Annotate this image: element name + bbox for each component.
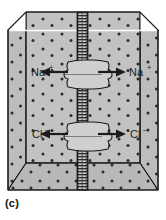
panel-caption: (c) xyxy=(5,197,19,210)
chloride-channel-protein xyxy=(64,122,112,151)
sodium-right-charge: + xyxy=(147,63,152,72)
sodium-channel-protein xyxy=(64,60,112,89)
sodium-left-charge: + xyxy=(49,63,54,72)
sodium-right-text: Na xyxy=(129,66,144,78)
ion-transport-diagram: Na + Na + Cl – Cl – xyxy=(0,0,166,220)
chamber-right-wall xyxy=(140,12,158,190)
chloride-left-text: Cl xyxy=(32,128,42,140)
sodium-left-text: Na xyxy=(31,66,46,78)
membrane xyxy=(77,12,88,190)
chamber-left-wall xyxy=(8,12,26,190)
figure-panel-c: Na + Na + Cl – Cl – (c) xyxy=(0,0,166,220)
chloride-right-text: Cl xyxy=(130,128,140,140)
